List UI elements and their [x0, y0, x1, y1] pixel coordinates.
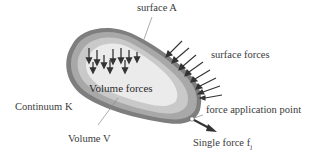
label-volume-forces: Volume forces — [89, 83, 153, 94]
label-volume-v: Volume V — [68, 134, 111, 145]
diagram-canvas — [0, 0, 335, 162]
single-force-arrow — [190, 117, 217, 132]
label-single-force: Single force fj — [193, 138, 252, 151]
label-force-application-point: force application point — [206, 105, 301, 116]
continuum-diagram: surface A surface forces Volume forces C… — [0, 0, 335, 162]
single-force-text: Single force f — [193, 137, 250, 148]
label-surface-forces: surface forces — [211, 50, 270, 61]
label-surface-a: surface A — [137, 3, 177, 14]
label-continuum-k: Continuum K — [15, 102, 72, 113]
single-force-subscript: j — [250, 143, 252, 151]
